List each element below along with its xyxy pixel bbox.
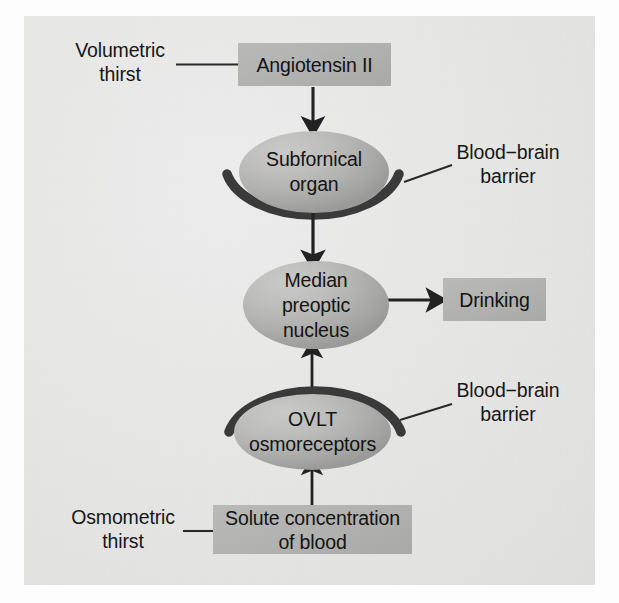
node-median-preoptic-nucleus-label: Median preoptic nucleus: [282, 268, 350, 343]
node-median-preoptic-nucleus: Median preoptic nucleus: [243, 261, 389, 349]
node-subfornical-organ: Subfornical organ: [239, 131, 389, 213]
node-drinking-label: Drinking: [459, 288, 529, 312]
label-blood-brain-barrier-top: Blood−brain barrier: [438, 140, 578, 188]
node-solute-concentration-label: Solute concentration of blood: [225, 506, 400, 554]
figure-root: Volumetric thirst Blood−brain barrier Bl…: [0, 0, 619, 603]
node-angiotensin-ii: Angiotensin II: [238, 43, 391, 86]
label-blood-brain-barrier-bottom: Blood−brain barrier: [438, 378, 578, 426]
node-ovlt-osmoreceptors: OVLT osmoreceptors: [234, 394, 391, 470]
node-subfornical-organ-label: Subfornical organ: [266, 147, 362, 197]
node-ovlt-osmoreceptors-label: OVLT osmoreceptors: [249, 407, 376, 457]
label-volumetric-thirst: Volumetric thirst: [64, 38, 176, 86]
node-drinking: Drinking: [443, 278, 546, 321]
node-angiotensin-ii-label: Angiotensin II: [256, 53, 372, 77]
label-osmometric-thirst: Osmometric thirst: [62, 505, 184, 553]
node-solute-concentration: Solute concentration of blood: [213, 505, 412, 554]
